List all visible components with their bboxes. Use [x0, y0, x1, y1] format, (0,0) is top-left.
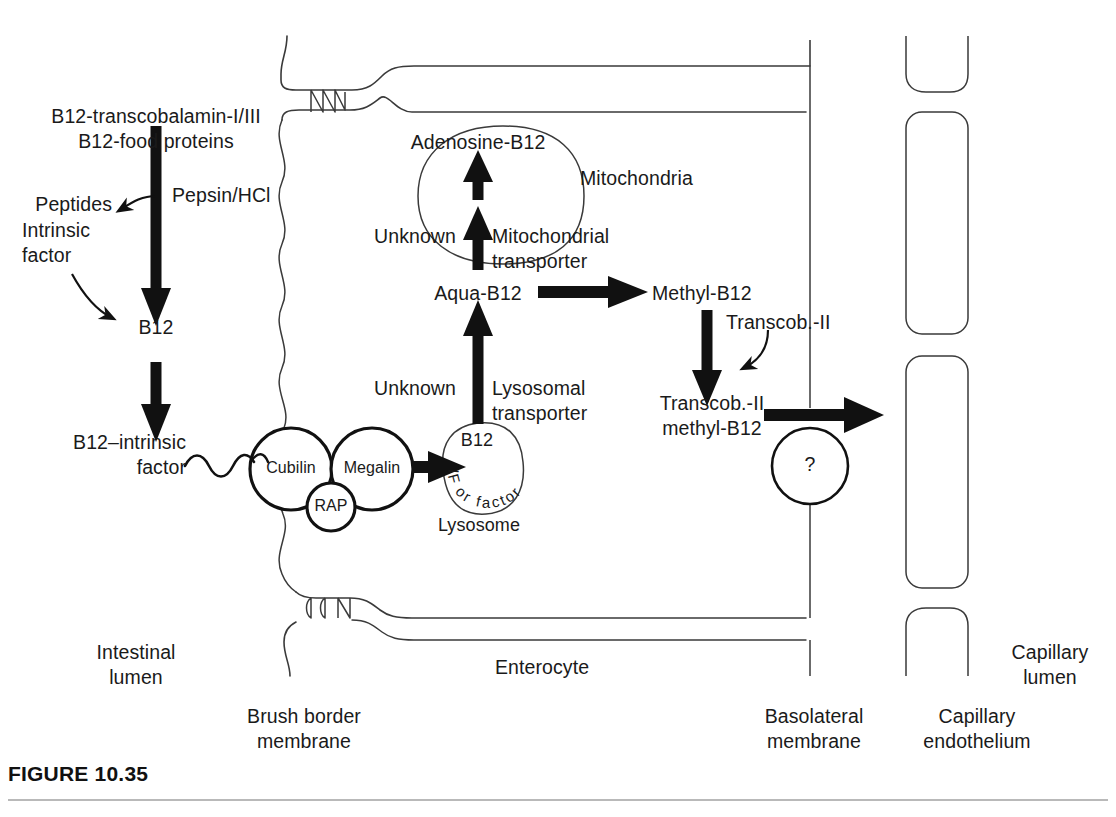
- lower-cell-outline: [284, 622, 296, 676]
- label-pepsin-hcl: Pepsin/HCl: [172, 183, 271, 208]
- endothelial-cell-3: [906, 356, 968, 588]
- enterocyte-basal-outline: [296, 592, 806, 618]
- endothelial-cell-1: [906, 36, 968, 92]
- arrow-basolateral-exit-head: [844, 397, 884, 433]
- label-cubilin: Cubilin: [247, 458, 335, 478]
- label-capillary-lumen: Capillary lumen: [990, 640, 1110, 689]
- label-aqua-b12: Aqua-B12: [414, 281, 542, 306]
- label-transcob-ii: Transcob.-II: [726, 310, 831, 335]
- label-adenosine-b12: Adenosine-B12: [402, 130, 554, 155]
- label-capillary-endothelium: Capillary endothelium: [880, 704, 1074, 753]
- svg-text:IF or factor: IF or factor: [445, 468, 525, 510]
- arrow-transcob-cofactor: [744, 330, 768, 368]
- tight-junction-basal: [307, 598, 351, 618]
- arrow-intrinsic-factor: [72, 274, 112, 318]
- label-basolateral-membrane: Basolateral membrane: [724, 704, 904, 753]
- figure-caption: FIGURE 10.35: [8, 762, 148, 786]
- label-lysosomal-transporter: Lysosomal transporter: [492, 376, 587, 425]
- label-b12-intrinsic-factor-complex: B12–intrinsic factor: [38, 430, 186, 479]
- lysosome-arc-text: IF or factor: [445, 468, 525, 510]
- tight-junction-apical: [311, 90, 345, 112]
- brush-border-membrane-upper: [272, 120, 286, 446]
- figure-caption-label: FIGURE: [8, 762, 89, 785]
- label-b12-substrate: B12-transcobalamin-I/III B12-food protei…: [30, 104, 282, 153]
- label-transcob-methyl-b12: Transcob.-II methyl-B12: [634, 391, 790, 440]
- label-unknown-carrier: ?: [786, 452, 834, 477]
- arrow-methylation-head: [608, 276, 648, 308]
- label-intrinsic-factor: Intrinsic factor: [22, 218, 90, 267]
- label-unknown-lysosomal-transporter: Unknown: [316, 376, 456, 401]
- figure-caption-number: 10.35: [95, 762, 149, 785]
- label-mitochondrial-transporter: Mitochondrial transporter: [492, 224, 609, 273]
- label-peptides: Peptides: [0, 192, 112, 217]
- upper-cell-outline: [281, 36, 810, 90]
- label-megalin: Megalin: [328, 458, 416, 478]
- arrow-adenosyl-conversion-head: [463, 150, 493, 182]
- enterocyte-apical-outline: [282, 97, 806, 120]
- label-brush-border-membrane: Brush border membrane: [190, 704, 418, 753]
- caption-rule: [8, 799, 1108, 801]
- label-enterocyte: Enterocyte: [452, 655, 632, 680]
- b12-if-squiggle: [185, 455, 254, 477]
- lower-cell-apical: [352, 620, 806, 640]
- endothelial-cell-2: [906, 112, 968, 334]
- label-free-b12: B12: [116, 315, 196, 340]
- label-mitochondria: Mitochondria: [580, 166, 693, 191]
- label-methyl-b12: Methyl-B12: [652, 281, 752, 306]
- label-rap: RAP: [300, 496, 362, 516]
- arrow-mitochondrial-transport-head: [463, 206, 493, 240]
- figure-page: B12-transcobalamin-I/III B12-food protei…: [0, 0, 1116, 817]
- endothelial-cell-4: [906, 608, 968, 676]
- label-unknown-mitochondrial-transporter: Unknown: [316, 224, 456, 249]
- label-intestinal-lumen: Intestinal lumen: [56, 640, 216, 689]
- lysosome-degradation-arc: IF or factor: [436, 444, 540, 522]
